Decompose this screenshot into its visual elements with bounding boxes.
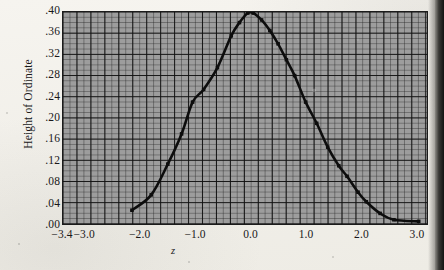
x-axis-tick-label: −1.0: [184, 229, 205, 241]
data-point-marker: [304, 100, 308, 104]
data-point-markers: [130, 11, 420, 223]
data-point-marker: [130, 208, 134, 212]
x-axis-tick-label: −2.0: [129, 229, 150, 241]
data-point-marker: [229, 34, 233, 38]
data-point-marker: [166, 162, 170, 166]
x-axis-title-text: z: [171, 245, 175, 256]
data-point-marker: [285, 58, 289, 62]
y-axis-tick-label: .04: [16, 198, 60, 210]
normal-curve-line: [132, 12, 419, 221]
data-point-marker: [216, 66, 220, 70]
y-axis-title: Height of Ordinate: [22, 24, 34, 184]
data-point-marker: [251, 11, 255, 15]
chart-figure: .40.36.32.28.24.20.16.12.08.04.00 Height…: [0, 0, 444, 270]
x-axis-title: z: [0, 245, 444, 256]
data-point-marker: [246, 11, 250, 15]
data-point-marker: [180, 132, 184, 136]
data-point-marker: [293, 74, 297, 78]
data-point-marker: [326, 145, 330, 149]
x-axis-tick-label: 3.0: [410, 229, 425, 241]
data-point-marker: [356, 190, 360, 194]
data-point-marker: [268, 29, 272, 33]
data-point-marker: [260, 18, 264, 22]
data-point-marker: [202, 88, 206, 92]
data-point-marker: [378, 212, 382, 216]
data-point-marker: [337, 164, 341, 168]
x-axis-tick-label: 0.0: [243, 229, 258, 241]
data-point-marker: [191, 100, 195, 104]
scan-edge-dark-band: [435, 0, 444, 270]
data-series-layer: [63, 12, 427, 224]
x-axis-tick-label: 1.0: [299, 229, 314, 241]
x-axis-tick-label: 2.0: [354, 229, 369, 241]
data-point-marker: [365, 200, 369, 204]
data-point-marker: [315, 122, 319, 126]
plot-area: [62, 11, 428, 225]
data-point-marker: [238, 21, 242, 25]
data-point-marker: [392, 218, 396, 222]
scanned-figure-page: .40.36.32.28.24.20.16.12.08.04.00 Height…: [0, 0, 444, 270]
data-point-marker: [149, 193, 153, 197]
data-point-marker: [345, 175, 349, 179]
y-axis-tick-label: .40: [16, 5, 60, 17]
data-point-marker: [276, 42, 280, 46]
scan-edge-shadow: [428, 0, 435, 270]
x-axis-tick-label: −3.0: [74, 229, 95, 241]
data-point-marker: [417, 220, 421, 224]
x-axis-tick-label: −3.4: [51, 229, 72, 241]
